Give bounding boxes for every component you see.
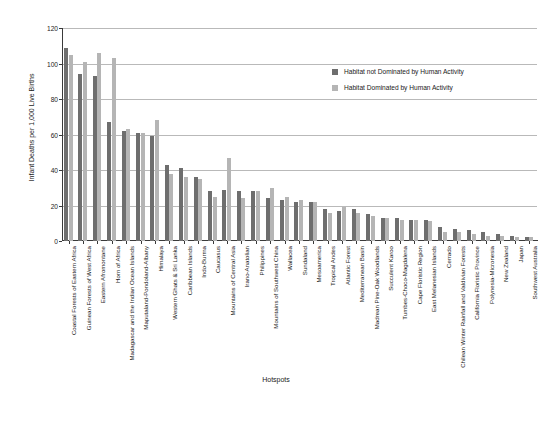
x-tick-mark <box>515 241 516 244</box>
bar <box>141 133 145 241</box>
y-tick-label: 80 <box>51 96 58 103</box>
x-tick-label: Madrean Pine-Oak Woodlands <box>374 246 380 329</box>
x-tick-label: Cerrado <box>446 246 452 268</box>
bar <box>337 211 341 241</box>
y-tick-label: 60 <box>51 131 58 138</box>
x-tick-mark <box>169 241 170 244</box>
bar <box>251 191 255 241</box>
legend-item-dominated: Habitat Dominated by Human Activity <box>332 84 464 91</box>
x-tick-label: Madagascar and the Indian Ocean Islands <box>129 246 135 361</box>
legend-swatch-icon <box>332 69 338 75</box>
bars-layer <box>62 28 538 241</box>
bar <box>371 216 375 241</box>
x-tick-label: Polynesia-Micronesia <box>489 246 495 304</box>
y-tick-label: 0 <box>54 238 58 245</box>
bar <box>222 190 226 241</box>
legend: Habitat not Dominated by Human Activity … <box>332 68 464 100</box>
x-tick-label: Irano-Anatolian <box>244 246 250 287</box>
bar <box>69 55 73 241</box>
x-tick-label: New Zealand <box>503 246 509 282</box>
x-tick-label: Horn of Africa <box>115 246 121 283</box>
bar <box>366 214 370 241</box>
x-axis-ticks <box>62 241 538 245</box>
x-tick-label: Coastal Forests of Eastern Africa <box>71 246 77 335</box>
bar <box>93 76 97 241</box>
x-tick-mark <box>256 241 257 244</box>
x-tick-label: Caucasus <box>215 246 221 273</box>
x-tick-mark <box>155 241 156 244</box>
x-tick-mark <box>400 241 401 244</box>
bar <box>457 232 461 241</box>
bar <box>467 230 471 241</box>
bar <box>208 191 212 241</box>
x-tick-mark <box>313 241 314 244</box>
bar <box>213 197 217 241</box>
bar <box>126 129 130 241</box>
x-tick-label: Guinean Forests of West Africa <box>86 246 92 330</box>
bar <box>270 188 274 241</box>
y-axis-ticks: 020406080100120 <box>28 28 58 241</box>
bar <box>428 221 432 241</box>
x-tick-mark <box>328 241 329 244</box>
bar <box>342 207 346 241</box>
x-tick-label: Indo-Burma <box>201 246 207 278</box>
x-tick-mark <box>472 241 473 244</box>
bar <box>285 197 289 241</box>
x-tick-label: California Floristic Province <box>474 246 480 320</box>
bar <box>496 234 500 241</box>
bar <box>78 74 82 241</box>
bar <box>112 58 116 241</box>
x-tick-label: Himalaya <box>158 246 164 271</box>
bar <box>356 213 360 241</box>
bar <box>165 165 169 241</box>
x-tick-label: Mountains of Southwest China <box>273 246 279 329</box>
x-tick-label: Maputaland-Pondoland-Albany <box>143 246 149 330</box>
legend-label: Habitat not Dominated by Human Activity <box>344 68 464 75</box>
bar <box>64 48 68 241</box>
bar <box>299 200 303 241</box>
y-tick-label: 120 <box>47 25 58 32</box>
bar <box>400 220 404 241</box>
x-tick-label: Tropical Andes <box>330 246 336 286</box>
bar <box>409 220 413 241</box>
bar <box>194 177 198 241</box>
x-tick-label: East Melanesian Islands <box>431 246 437 312</box>
bar <box>438 227 442 241</box>
y-tick-label: 100 <box>47 60 58 67</box>
x-tick-label: Mediterranean Basin <box>359 246 365 302</box>
y-tick-label: 20 <box>51 202 58 209</box>
bar <box>179 168 183 241</box>
bar <box>309 202 313 241</box>
legend-swatch-icon <box>332 85 338 91</box>
x-tick-mark <box>529 241 530 244</box>
bar <box>83 62 87 241</box>
x-tick-mark <box>342 241 343 244</box>
x-tick-mark <box>428 241 429 244</box>
x-tick-mark <box>97 241 98 244</box>
x-tick-label: Cape Floristic Region <box>417 246 423 304</box>
x-tick-mark <box>112 241 113 244</box>
x-tick-mark <box>457 241 458 244</box>
bar <box>453 229 457 241</box>
x-tick-mark <box>213 241 214 244</box>
bar <box>155 120 159 241</box>
bar <box>280 200 284 241</box>
x-tick-label: Caribbean Islands <box>187 246 193 295</box>
bar <box>395 218 399 241</box>
x-tick-mark <box>69 241 70 244</box>
x-tick-label: Atlantic Forest <box>345 246 351 285</box>
bar <box>294 202 298 241</box>
x-tick-mark <box>385 241 386 244</box>
bar <box>381 218 385 241</box>
y-tick-label: 40 <box>51 167 58 174</box>
x-tick-label: Mountains of Central Asia <box>230 246 236 315</box>
x-axis-title: Hotspots <box>0 376 552 383</box>
x-tick-mark <box>270 241 271 244</box>
legend-item-not-dominated: Habitat not Dominated by Human Activity <box>332 68 464 75</box>
x-tick-mark <box>486 241 487 244</box>
x-tick-mark <box>83 241 84 244</box>
bar <box>352 209 356 241</box>
x-tick-mark <box>285 241 286 244</box>
bar <box>481 232 485 241</box>
bar <box>107 122 111 241</box>
